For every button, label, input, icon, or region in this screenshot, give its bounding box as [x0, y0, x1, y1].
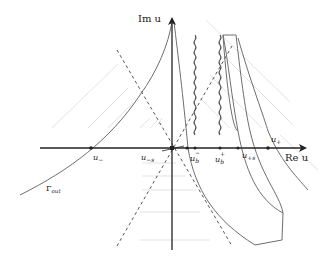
point-u-plus-s	[237, 147, 240, 150]
label-ub-minus: ub−	[190, 149, 200, 164]
axes	[40, 19, 305, 250]
branch-cuts	[194, 35, 221, 135]
imag-axis-label: Im u	[138, 13, 162, 24]
labels: Im u Re u u− u−s ub− ub+ u+s u+ Γout	[46, 13, 309, 194]
point-u-minus	[89, 146, 93, 150]
gamma-out-left-curve	[20, 22, 172, 195]
label-u-minus-s: u−s	[141, 153, 154, 163]
label-ub-plus: ub+	[215, 150, 225, 165]
point-u-minus-s	[186, 147, 189, 150]
dashed-lines	[117, 46, 232, 246]
right-contour-inner	[223, 35, 283, 213]
u-plane-diagram: Im u Re u u− u−s ub− ub+ u+s u+ Γout	[0, 0, 325, 263]
label-u-plus-s: u+s	[242, 151, 255, 161]
label-gamma-out: Γout	[46, 184, 61, 194]
branch-cut-ub-minus	[194, 35, 196, 135]
faint-guide-lines	[52, 20, 318, 240]
point-origin	[170, 146, 174, 150]
contour-curves	[20, 22, 308, 245]
label-u-minus: u−	[93, 153, 103, 163]
label-u-plus: u+	[271, 135, 281, 145]
real-axis-label: Re u	[285, 152, 309, 163]
point-u-plus	[266, 146, 270, 150]
